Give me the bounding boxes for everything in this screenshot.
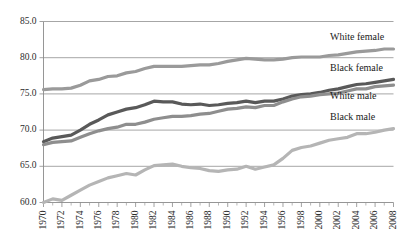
y-tick-label-65.0: 65.0 xyxy=(20,160,37,170)
y-tick-label-80.0: 80.0 xyxy=(20,52,37,62)
series-line-black-male xyxy=(44,129,394,203)
y-tick-labels: 60.065.070.075.080.085.0 xyxy=(20,16,37,207)
x-tick-label-1980: 1980 xyxy=(130,210,140,229)
series-label-white-male: White male xyxy=(330,90,377,101)
series-inline-labels: White femaleBlack femaleWhite maleBlack … xyxy=(330,31,385,122)
y-tick-label-85.0: 85.0 xyxy=(20,16,37,26)
x-axis xyxy=(44,203,394,208)
x-tick-label-1996: 1996 xyxy=(277,210,287,229)
x-tick-label-2000: 2000 xyxy=(314,210,324,229)
series-label-white-female: White female xyxy=(330,31,385,42)
x-tick-label-2006: 2006 xyxy=(369,210,379,229)
x-tick-label-1976: 1976 xyxy=(93,210,103,229)
x-tick-label-1994: 1994 xyxy=(259,210,269,229)
y-tick-label-75.0: 75.0 xyxy=(20,88,37,98)
series-label-black-female: Black female xyxy=(330,62,384,73)
x-tick-label-1986: 1986 xyxy=(185,210,195,229)
x-tick-labels: 1970197219741976197819801982198419861988… xyxy=(38,210,398,229)
x-tick-label-2008: 2008 xyxy=(388,210,398,229)
x-tick-label-1990: 1990 xyxy=(222,210,232,229)
chart-canvas: 60.065.070.075.080.085.0 197019721974197… xyxy=(0,0,412,244)
x-tick-label-1978: 1978 xyxy=(111,210,121,229)
x-tick-label-2002: 2002 xyxy=(332,210,342,229)
x-tick-label-1998: 1998 xyxy=(296,210,306,229)
x-tick-label-1984: 1984 xyxy=(167,210,177,229)
x-tick-label-1988: 1988 xyxy=(203,210,213,229)
y-tick-label-70.0: 70.0 xyxy=(20,124,37,134)
x-tick-label-1974: 1974 xyxy=(75,210,85,229)
x-tick-label-1992: 1992 xyxy=(240,210,250,229)
y-tick-label-60.0: 60.0 xyxy=(20,197,37,207)
series-label-black-male: Black male xyxy=(330,111,376,122)
x-tick-label-2004: 2004 xyxy=(351,210,361,229)
x-tick-label-1982: 1982 xyxy=(148,210,158,229)
line-chart: 60.065.070.075.080.085.0 197019721974197… xyxy=(0,0,412,244)
x-tick-label-1972: 1972 xyxy=(56,210,66,229)
x-tick-label-1970: 1970 xyxy=(38,210,48,229)
y-axis xyxy=(40,22,44,203)
